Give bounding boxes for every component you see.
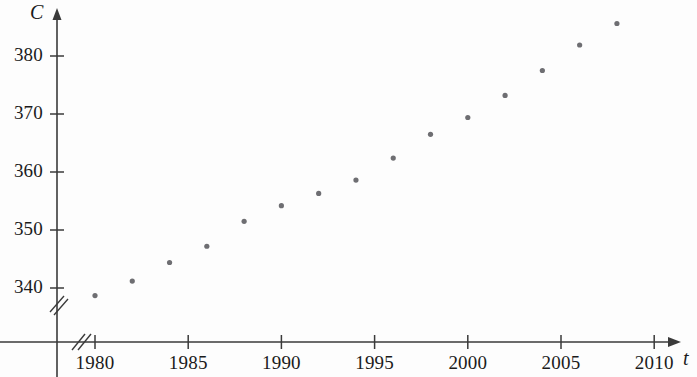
y-tick-label: 360 bbox=[0, 160, 43, 182]
y-tick-label: 370 bbox=[0, 102, 43, 124]
x-tick-label: 1990 bbox=[246, 352, 316, 374]
data-point bbox=[130, 278, 135, 283]
y-tick-label: 380 bbox=[0, 44, 43, 66]
y-axis-label: C bbox=[30, 1, 43, 24]
data-point bbox=[204, 244, 209, 249]
data-point bbox=[167, 260, 172, 265]
data-point-group bbox=[92, 21, 619, 298]
x-axis-arrowhead bbox=[668, 337, 681, 347]
x-tick-label: 1980 bbox=[60, 352, 130, 374]
x-tick-label: 2010 bbox=[619, 352, 689, 374]
x-tick-label: 1995 bbox=[340, 352, 410, 374]
data-point bbox=[316, 191, 321, 196]
x-tick-label: 2000 bbox=[433, 352, 503, 374]
data-point bbox=[92, 293, 97, 298]
y-axis-arrowhead bbox=[53, 8, 62, 20]
data-point bbox=[279, 203, 284, 208]
data-point bbox=[428, 132, 433, 137]
x-tick-label: 1985 bbox=[153, 352, 223, 374]
data-point bbox=[391, 155, 396, 160]
data-point bbox=[353, 178, 358, 183]
data-point bbox=[465, 115, 470, 120]
data-point bbox=[242, 219, 247, 224]
data-point bbox=[614, 21, 619, 26]
y-tick-label: 350 bbox=[0, 218, 43, 240]
y-axis bbox=[53, 8, 62, 377]
x-tick-label: 2005 bbox=[526, 352, 596, 374]
data-point bbox=[577, 42, 582, 47]
plot-area bbox=[0, 0, 697, 377]
scatter-chart: C t 340350360370380 19801985199019952000… bbox=[0, 0, 697, 377]
y-axis-break-icon bbox=[50, 296, 68, 315]
y-tick-label: 340 bbox=[0, 276, 43, 298]
data-point bbox=[502, 93, 507, 98]
x-axis bbox=[0, 337, 681, 347]
data-point bbox=[540, 68, 545, 73]
